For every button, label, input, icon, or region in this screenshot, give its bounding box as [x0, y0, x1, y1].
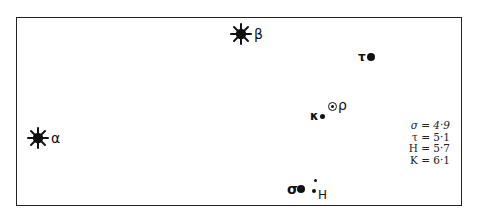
star-dot-tau: [367, 53, 375, 61]
star-dot-unlabeled: [314, 179, 317, 182]
ring-star-icon: [328, 102, 337, 111]
star-label-tau: τ: [358, 51, 366, 63]
star-label-H: H: [318, 189, 327, 201]
magnitude-legend: σ = 4·9 τ = 5·1 H = 5·7 K = 6·1: [400, 120, 450, 166]
star-label-alpha: α: [51, 131, 60, 145]
star-label-beta: β: [254, 27, 263, 41]
legend-row-K: K = 6·1: [400, 155, 450, 167]
star-dot-sigma: [297, 185, 305, 193]
star-label-rho: ρ: [338, 98, 347, 112]
bright-star-icon: [27, 127, 49, 149]
star-dot-kappa: [320, 114, 325, 119]
legend-row-sigma: σ = 4·9: [400, 120, 450, 132]
star-label-kappa: κ: [310, 110, 319, 122]
legend-row-H: H = 5·7: [400, 143, 450, 155]
bright-star-icon: [230, 23, 252, 45]
map-frame: [16, 17, 462, 206]
star-dot-H: [312, 189, 316, 193]
